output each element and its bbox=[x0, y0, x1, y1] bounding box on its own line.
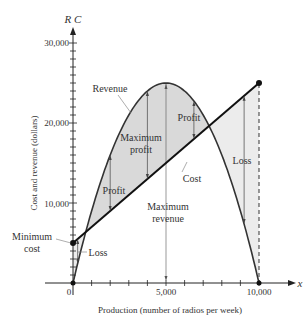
max-profit-label-line2: profit bbox=[130, 144, 152, 155]
max-revenue-label-line2: revenue bbox=[152, 213, 184, 224]
cost-label: Cost bbox=[183, 173, 202, 184]
y-axis-variable: R C bbox=[64, 13, 82, 25]
max-revenue-arrow-icon bbox=[165, 276, 168, 281]
y-tick-30000: 30,000 bbox=[44, 38, 69, 48]
cost-leader bbox=[182, 162, 187, 172]
x-axis-arrow-icon bbox=[288, 280, 296, 286]
origin-point bbox=[71, 281, 76, 286]
max-profit-label-line1: Maximum bbox=[120, 132, 162, 143]
profit-left-label: Profit bbox=[103, 185, 126, 196]
y-tick-10000: 10,000 bbox=[44, 199, 69, 209]
cost-revenue-chart: 30,000 20,000 10,000 0 5,000 10,000 R C … bbox=[0, 0, 306, 328]
revenue-end-point bbox=[257, 281, 262, 286]
min-cost-label-line2: cost bbox=[24, 243, 40, 254]
loss-right-label: Loss bbox=[233, 155, 252, 166]
chart-canvas: 30,000 20,000 10,000 0 5,000 10,000 R C … bbox=[0, 0, 306, 328]
max-revenue-label-line1: Maximum bbox=[147, 201, 189, 212]
y-tick-20000: 20,000 bbox=[44, 118, 69, 128]
revenue-label: Revenue bbox=[93, 83, 129, 94]
min-cost-leader bbox=[56, 239, 71, 243]
x-axis-title: Production (number of radios per week) bbox=[98, 305, 242, 315]
y-axis-arrow-icon bbox=[70, 27, 76, 35]
revenue-leader bbox=[118, 95, 131, 113]
y-axis-title: Cost and revenue (dollars) bbox=[29, 115, 39, 210]
loss-left-label: Loss bbox=[89, 247, 108, 258]
cost-end-point bbox=[256, 80, 262, 86]
profit-right-label: Profit bbox=[178, 112, 201, 123]
x-axis-variable: x bbox=[297, 277, 303, 289]
x-tick-10000: 10,000 bbox=[247, 287, 272, 297]
min-cost-label-line1: Minimum bbox=[12, 231, 52, 242]
x-tick-0: 0 bbox=[67, 287, 72, 297]
x-tick-5000: 5,000 bbox=[156, 287, 177, 297]
